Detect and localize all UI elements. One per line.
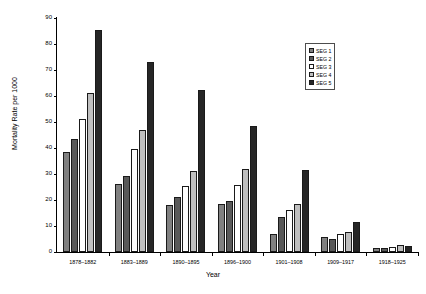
- bar[interactable]: [337, 234, 344, 252]
- legend-item[interactable]: SEG 1: [309, 47, 331, 54]
- plot-area: 0102030405060708090: [57, 18, 418, 252]
- x-axis-tick-label: 1883–1889: [109, 258, 161, 266]
- bar[interactable]: [166, 205, 173, 252]
- bar[interactable]: [115, 184, 122, 252]
- bar[interactable]: [87, 93, 94, 252]
- y-axis-tick-label: 60: [32, 91, 52, 99]
- x-axis-tick: [263, 252, 264, 256]
- bar-chart-figure: 0102030405060708090 Mortality Rate per 1…: [0, 0, 426, 294]
- legend-swatch-icon: [309, 72, 314, 77]
- legend-item-label: SEG 3: [316, 64, 331, 70]
- legend-swatch-icon: [309, 80, 314, 85]
- bar[interactable]: [190, 171, 197, 252]
- y-axis-tick-label: 30: [32, 169, 52, 177]
- y-axis-tick-label: 10: [32, 221, 52, 229]
- x-axis-line: [56, 252, 418, 253]
- legend-item[interactable]: SEG 4: [309, 71, 331, 78]
- bar[interactable]: [345, 232, 352, 252]
- bar[interactable]: [294, 204, 301, 252]
- bar[interactable]: [79, 119, 86, 252]
- bar-group: [109, 18, 161, 252]
- x-axis-tick-label: 1878–1882: [57, 258, 109, 266]
- bar[interactable]: [405, 246, 412, 253]
- y-axis-title: Mortality Rate per 1000: [11, 54, 18, 174]
- bar[interactable]: [174, 197, 181, 252]
- bar[interactable]: [95, 30, 102, 252]
- legend-swatch-icon: [309, 64, 314, 69]
- x-axis-tick-label: 1896–1900: [212, 258, 264, 266]
- x-axis-title: Year: [0, 271, 426, 278]
- bar[interactable]: [123, 176, 130, 252]
- bar[interactable]: [353, 222, 360, 252]
- legend-item[interactable]: SEG 2: [309, 55, 331, 62]
- y-axis-tick-label: 70: [32, 65, 52, 73]
- bar[interactable]: [139, 130, 146, 252]
- bar-group: [57, 18, 109, 252]
- legend-item-label: SEG 1: [316, 48, 331, 54]
- y-axis-tick-label: 40: [32, 143, 52, 151]
- bar[interactable]: [71, 139, 78, 252]
- x-axis-tick: [366, 252, 367, 256]
- y-axis-tick-mark: [54, 252, 57, 253]
- legend-item[interactable]: SEG 5: [309, 79, 331, 86]
- bar[interactable]: [226, 201, 233, 252]
- bar[interactable]: [302, 170, 309, 252]
- bar[interactable]: [63, 152, 70, 252]
- bar[interactable]: [286, 210, 293, 252]
- bar-group: [212, 18, 264, 252]
- x-axis-tick: [160, 252, 161, 256]
- y-axis-tick-label: 20: [32, 195, 52, 203]
- bar[interactable]: [147, 62, 154, 252]
- x-axis-tick-label: 1901–1908: [263, 258, 315, 266]
- x-axis-tick: [109, 252, 110, 256]
- bar[interactable]: [218, 204, 225, 252]
- bar[interactable]: [270, 234, 277, 252]
- bar[interactable]: [131, 149, 138, 252]
- bar[interactable]: [182, 186, 189, 252]
- x-axis-tick-label: 1890–1895: [160, 258, 212, 266]
- bar-group: [160, 18, 212, 252]
- bar[interactable]: [329, 239, 336, 252]
- legend-item[interactable]: SEG 3: [309, 63, 331, 70]
- legend-swatch-icon: [309, 56, 314, 61]
- bar[interactable]: [373, 248, 380, 252]
- y-axis-tick-label: 0: [32, 247, 52, 255]
- chart-legend: SEG 1SEG 2SEG 3SEG 4SEG 5: [305, 43, 335, 90]
- bar-group: [366, 18, 418, 252]
- x-axis-tick: [212, 252, 213, 256]
- x-axis-tick-label: 1909–1917: [315, 258, 367, 266]
- y-axis-tick-label: 80: [32, 39, 52, 47]
- x-axis-tick: [418, 252, 419, 256]
- x-axis-tick-label: 1918–1925: [366, 258, 418, 266]
- bar[interactable]: [381, 248, 388, 252]
- bar[interactable]: [250, 126, 257, 252]
- bar[interactable]: [397, 245, 404, 252]
- legend-item-label: SEG 4: [316, 72, 331, 78]
- y-axis-tick-label: 90: [32, 13, 52, 21]
- bar[interactable]: [278, 217, 285, 252]
- bar[interactable]: [321, 237, 328, 252]
- bar[interactable]: [242, 169, 249, 252]
- bar[interactable]: [198, 90, 205, 252]
- legend-item-label: SEG 2: [316, 56, 331, 62]
- bar[interactable]: [234, 185, 241, 252]
- bar[interactable]: [389, 247, 396, 252]
- legend-swatch-icon: [309, 48, 314, 53]
- legend-item-label: SEG 5: [316, 80, 331, 86]
- y-axis-tick-label: 50: [32, 117, 52, 125]
- x-axis-tick: [315, 252, 316, 256]
